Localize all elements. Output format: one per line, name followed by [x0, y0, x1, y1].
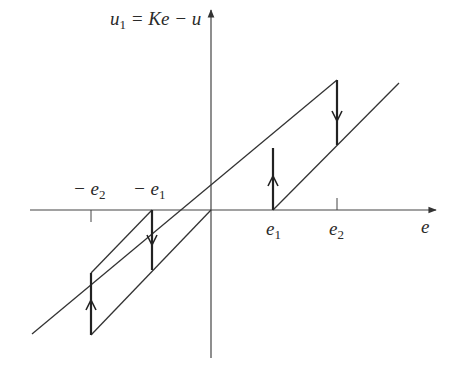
tick-label-e1: e1 [266, 219, 281, 241]
tick-label-e2: e2 [329, 219, 344, 241]
hysteresis-diagram [0, 0, 455, 376]
x-axis-label: e [421, 217, 429, 236]
tick-label-neg-e2: − e2 [73, 179, 106, 201]
upper-branch [32, 80, 337, 334]
y-axis-label: u1 = Ke − u [110, 9, 201, 31]
tick-label-neg-e1: − e1 [133, 179, 166, 201]
